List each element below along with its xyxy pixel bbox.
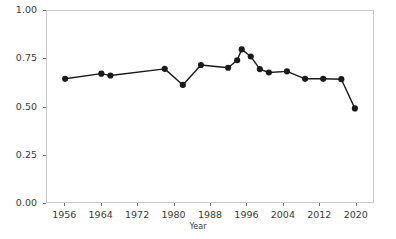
x-axis-tick-label: 1972: [125, 209, 149, 220]
x-axis-tick-label: 1988: [198, 209, 222, 220]
y-axis-tick-label: 0.75: [6, 52, 37, 63]
x-axis-tick-mark: [101, 203, 102, 206]
y-axis-tick-label: 1.00: [6, 4, 37, 15]
data-point-marker: [266, 69, 272, 75]
data-point-marker: [180, 82, 186, 88]
data-point-marker: [239, 46, 245, 52]
x-axis-tick-label: 2004: [271, 209, 295, 220]
plot-panel: [46, 10, 374, 203]
x-axis-tick-label: 2012: [307, 209, 331, 220]
x-axis-tick-mark: [64, 203, 65, 206]
x-axis-tick-label: 1956: [52, 209, 76, 220]
data-point-marker: [98, 71, 104, 77]
x-axis-tick-mark: [283, 203, 284, 206]
data-point-marker: [198, 62, 204, 68]
data-point-marker: [248, 53, 254, 59]
data-point-marker: [225, 65, 231, 71]
data-point-marker: [352, 105, 358, 111]
data-point-marker: [284, 68, 290, 74]
x-axis-tick-mark: [246, 203, 247, 206]
line-series-svg: [47, 11, 373, 202]
data-point-marker: [162, 66, 168, 72]
x-axis-tick-mark: [174, 203, 175, 206]
data-point-marker: [338, 76, 344, 82]
x-axis-tick-mark: [210, 203, 211, 206]
series-line: [65, 49, 355, 108]
y-axis-tick-mark: [43, 155, 46, 156]
y-axis-tick-label: 0.50: [6, 101, 37, 112]
x-axis-tick-label: 1996: [234, 209, 258, 220]
data-point-marker: [234, 57, 240, 63]
data-point-marker: [302, 76, 308, 82]
y-axis-tick-mark: [43, 203, 46, 204]
x-axis-tick-mark: [319, 203, 320, 206]
y-axis-tick-label: 0.25: [6, 149, 37, 160]
x-axis-tick-label: 1964: [89, 209, 113, 220]
data-point-marker: [107, 72, 113, 78]
x-axis-tick-label: 2020: [344, 209, 368, 220]
x-axis-tick-mark: [137, 203, 138, 206]
data-point-marker: [62, 76, 68, 82]
x-axis-label: Year: [0, 222, 396, 231]
chart-figure: 0.000.250.500.751.00 1956196419721980198…: [0, 0, 396, 239]
y-axis-tick-mark: [43, 107, 46, 108]
data-point-marker: [320, 76, 326, 82]
y-axis-tick-mark: [43, 58, 46, 59]
x-axis-tick-mark: [356, 203, 357, 206]
data-point-marker: [257, 66, 263, 72]
x-axis-tick-label: 1980: [161, 209, 185, 220]
y-axis-tick-mark: [43, 10, 46, 11]
y-axis-tick-label: 0.00: [6, 197, 37, 208]
